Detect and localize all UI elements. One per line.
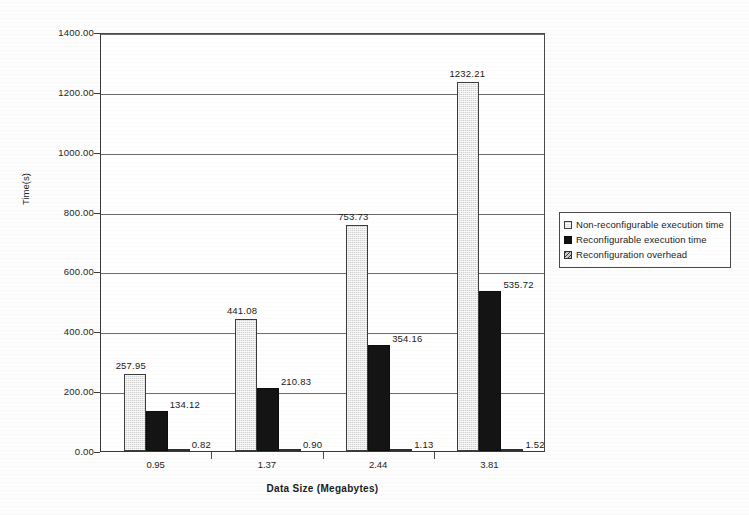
legend-item: Reconfigurable execution time — [564, 232, 724, 247]
bar-value-label: 1.52 — [525, 439, 544, 450]
y-axis-tick-mark — [94, 332, 100, 333]
x-axis-tick-label: 3.81 — [449, 459, 529, 470]
y-axis-tick-label: 800.00 — [24, 207, 94, 218]
x-axis-tick-label: 0.95 — [116, 459, 196, 470]
y-axis-tick-mark — [94, 33, 100, 34]
bar-value-label: 0.90 — [303, 439, 322, 450]
bar-1-2 — [368, 345, 390, 451]
legend-swatch-icon — [564, 251, 572, 259]
bar-value-label: 1232.21 — [449, 68, 485, 79]
y-axis-tick-mark — [94, 272, 100, 273]
bar-1-0 — [146, 411, 168, 451]
y-axis-tick-label: 400.00 — [24, 326, 94, 337]
bar-1-3 — [479, 291, 501, 451]
x-axis-tick-mark — [323, 452, 324, 459]
bar-value-label: 257.95 — [116, 360, 146, 371]
bar-value-label: 753.73 — [338, 211, 368, 222]
y-axis-tick-label: 1200.00 — [24, 87, 94, 98]
y-axis-tick-label: 1400.00 — [24, 27, 94, 38]
x-axis-tick-mark — [211, 452, 212, 459]
bar-value-label: 210.83 — [281, 376, 311, 387]
y-axis-tick-label: 0.00 — [24, 446, 94, 457]
bar-0-3 — [457, 82, 479, 451]
legend: Non-reconfigurable execution timeReconfi… — [559, 212, 731, 268]
plot-area — [100, 33, 545, 452]
legend-swatch-icon — [564, 221, 572, 229]
bar-value-label: 354.16 — [392, 333, 422, 344]
bar-0-1 — [235, 319, 257, 451]
y-axis-tick-label: 200.00 — [24, 386, 94, 397]
y-axis-title: Time(s) — [20, 173, 31, 205]
bar-value-label: 441.08 — [227, 305, 257, 316]
y-axis-tick-mark — [94, 452, 100, 453]
bar-2-3 — [501, 449, 523, 451]
bar-0-2 — [346, 225, 368, 451]
bar-value-label: 535.72 — [503, 279, 533, 290]
legend-swatch-icon — [564, 236, 572, 244]
bar-2-2 — [390, 449, 412, 451]
y-axis-tick-label: 1000.00 — [24, 147, 94, 158]
y-axis-tick-mark — [94, 392, 100, 393]
bar-value-label: 134.12 — [170, 399, 200, 410]
x-axis-tick-mark — [434, 452, 435, 459]
bar-value-label: 0.82 — [192, 439, 211, 450]
legend-label: Non-reconfigurable execution time — [576, 219, 724, 230]
y-axis-tick-mark — [94, 213, 100, 214]
gridline — [101, 34, 544, 35]
y-axis-tick-mark — [94, 93, 100, 94]
legend-label: Reconfigurable execution time — [576, 234, 707, 245]
y-axis-tick-label: 600.00 — [24, 266, 94, 277]
legend-label: Reconfiguration overhead — [576, 249, 687, 260]
x-axis-title: Data Size (Megabytes) — [100, 483, 545, 494]
bar-1-1 — [257, 388, 279, 451]
bar-2-0 — [168, 449, 190, 451]
bar-chart: Time(s) 1400.001200.001000.00800.00600.0… — [0, 0, 749, 515]
bar-2-1 — [279, 449, 301, 451]
y-axis-tick-mark — [94, 153, 100, 154]
bar-0-0 — [124, 374, 146, 451]
legend-item: Reconfiguration overhead — [564, 247, 724, 262]
bar-value-label: 1.13 — [414, 439, 433, 450]
x-axis-tick-label: 1.37 — [227, 459, 307, 470]
x-axis-tick-label: 2.44 — [338, 459, 418, 470]
legend-item: Non-reconfigurable execution time — [564, 217, 724, 232]
